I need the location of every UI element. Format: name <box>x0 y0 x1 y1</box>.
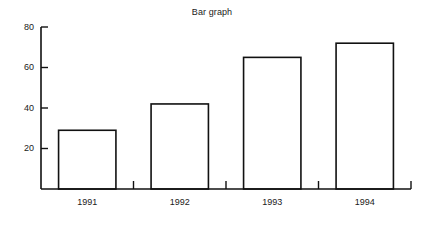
x-axis-labels: 1991199219931994 <box>77 197 375 207</box>
x-tick-label: 1992 <box>170 197 190 207</box>
bar-1993 <box>244 57 301 189</box>
x-tick-label: 1993 <box>262 197 282 207</box>
y-axis-labels: 20406080 <box>24 22 34 154</box>
y-tick-label: 20 <box>24 143 34 153</box>
y-axis-ticks <box>41 27 48 149</box>
x-tick-label: 1991 <box>77 197 97 207</box>
bar-1994 <box>336 43 393 189</box>
x-tick-label: 1994 <box>355 197 375 207</box>
bar-1992 <box>151 104 208 189</box>
bars-group <box>59 43 394 189</box>
y-tick-label: 60 <box>24 62 34 72</box>
bar-chart: Bar graph 20406080 1991199219931994 <box>0 0 424 229</box>
bar-1991 <box>59 130 116 189</box>
plot-area: 20406080 1991199219931994 <box>0 0 424 229</box>
y-tick-label: 80 <box>24 22 34 32</box>
y-tick-label: 40 <box>24 103 34 113</box>
